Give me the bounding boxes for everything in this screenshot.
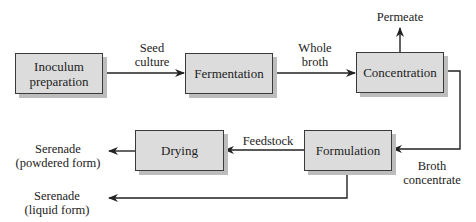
- concentration-label: Concentration: [363, 65, 437, 80]
- seed-culture-label: Seedculture: [122, 41, 182, 69]
- drying-box: Drying: [135, 130, 224, 171]
- inoculum-preparation-box: Inoculum preparation: [15, 53, 103, 94]
- formulation-box: Formulation: [304, 130, 392, 171]
- fermentation-label: Fermentation: [194, 66, 263, 81]
- inoculum-label-1: Inoculum: [34, 59, 84, 74]
- feedstock-label: Feedstock: [238, 134, 298, 148]
- concentration-box: Concentration: [356, 52, 444, 93]
- drying-label: Drying: [161, 143, 198, 158]
- inoculum-label-2: preparation: [29, 74, 88, 89]
- serenade-liquid-label: Serenade(liquid form): [14, 189, 100, 217]
- permeate-label: Permeate: [370, 10, 430, 24]
- fermentation-box: Fermentation: [185, 53, 273, 94]
- formulation-label: Formulation: [316, 143, 380, 158]
- broth-concentrate-label: Brothconcentrate: [394, 159, 470, 187]
- serenade-powdered-label: Serenade(powdered form): [12, 142, 104, 170]
- whole-broth-label: Wholebroth: [289, 41, 341, 69]
